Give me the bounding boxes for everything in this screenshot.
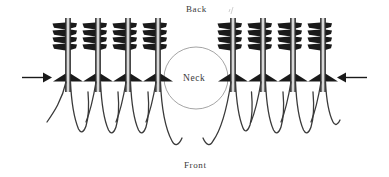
label-front: Front bbox=[184, 160, 207, 170]
follicle-r1 bbox=[203, 18, 252, 145]
follicle-l4 bbox=[143, 18, 183, 145]
figure-canvas: Back Neck Front bbox=[0, 0, 389, 177]
label-back: Back bbox=[186, 4, 207, 14]
left-pressure-arrow bbox=[22, 73, 52, 83]
follicle-group-right bbox=[203, 18, 340, 145]
follicle-r4 bbox=[308, 18, 341, 124]
follicle-r3 bbox=[278, 18, 314, 133]
follicle-l1 bbox=[47, 18, 88, 132]
follicle-diagram bbox=[0, 0, 389, 177]
right-pressure-arrow bbox=[337, 73, 367, 83]
label-neck: Neck bbox=[183, 73, 205, 83]
stray-tick-mark bbox=[229, 7, 233, 14]
follicle-r2 bbox=[248, 18, 284, 133]
follicle-l2 bbox=[83, 18, 119, 133]
follicle-l3 bbox=[113, 18, 149, 133]
follicle-group-left bbox=[47, 18, 182, 145]
